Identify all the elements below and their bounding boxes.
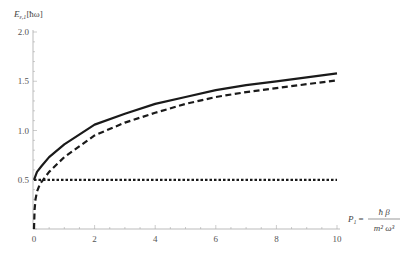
axes — [33, 30, 340, 229]
y-tick-label: 0.5 — [18, 175, 30, 185]
x-tick-label: 2 — [92, 234, 97, 244]
y-axis-label: Eε,1[ħω] — [13, 9, 43, 20]
series-solid-line — [34, 73, 337, 179]
series-dashed-line — [34, 80, 337, 229]
y-tick-label: 2.0 — [18, 27, 30, 37]
svg-text:m² ω³: m² ω³ — [374, 223, 395, 233]
x-tick-label: 4 — [153, 234, 158, 244]
series — [34, 73, 337, 229]
x-tick-label: 0 — [32, 234, 37, 244]
x-axis-label: P1= ħ β m² ω³ — [347, 207, 400, 233]
x-tick-label: 10 — [333, 234, 343, 244]
x-tick-label: 8 — [274, 234, 279, 244]
chart: 0.51.01.52.00246810 Eε,1[ħω] P1= ħ β m² … — [0, 0, 408, 253]
ticks: 0.51.01.52.00246810 — [18, 27, 342, 244]
svg-text:P1=: P1= — [347, 214, 364, 225]
x-tick-label: 6 — [214, 234, 219, 244]
svg-text:ħ β: ħ β — [378, 207, 390, 217]
y-tick-label: 1.0 — [18, 126, 30, 136]
y-tick-label: 1.5 — [18, 76, 30, 86]
